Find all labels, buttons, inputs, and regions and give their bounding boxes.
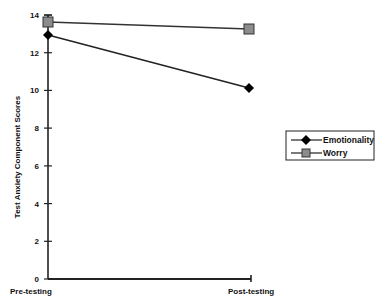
y-tick-14: 14	[30, 11, 39, 20]
y-axis-title: Test Anxiety Component Scores	[13, 95, 22, 218]
series-worry	[43, 17, 254, 34]
legend-label-worry: Worry	[323, 148, 348, 158]
x-label-post-testing: Post-testing	[228, 287, 274, 296]
y-tick-0: 0	[35, 275, 40, 284]
y-tick-labels: 0 2 4 6 8 10 12 14	[30, 11, 39, 284]
y-tick-6: 6	[35, 162, 40, 171]
y-tick-2: 2	[35, 237, 40, 246]
worry-marker-post	[244, 24, 254, 34]
worry-marker-pre	[43, 17, 53, 27]
line-chart: Test Anxiety Component Scores 0 2 4 6 8 …	[0, 0, 386, 304]
emotionality-marker-pre	[43, 30, 53, 40]
y-tick-4: 4	[35, 200, 40, 209]
y-tick-12: 12	[30, 49, 39, 58]
square-icon	[302, 149, 310, 157]
series-emotionality	[43, 30, 254, 93]
legend: Emotionality Worry	[286, 131, 374, 160]
emotionality-marker-post	[244, 83, 254, 93]
y-tick-10: 10	[30, 86, 39, 95]
x-label-pre-testing: Pre-testing	[10, 287, 52, 296]
y-tick-8: 8	[35, 124, 40, 133]
legend-label-emotionality: Emotionality	[323, 135, 374, 145]
